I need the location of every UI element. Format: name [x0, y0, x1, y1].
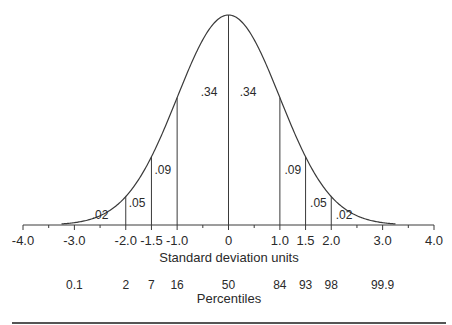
- percentile-label: 16: [170, 278, 184, 292]
- normal-curve-diagram: -4.0-3.0-2.0-1.5-1.001.01.52.03.04.0.02.…: [0, 0, 452, 325]
- percentile-label: 7: [148, 278, 155, 292]
- percentiles-title: Percentiles: [197, 291, 262, 306]
- region-probability-label: .05: [129, 196, 146, 210]
- x-tick-label: 1.5: [297, 233, 315, 248]
- x-tick-label: -3.0: [63, 233, 85, 248]
- x-tick-label: 4.0: [425, 233, 443, 248]
- region-probability-label: .02: [92, 208, 109, 222]
- x-tick-label: 1.0: [271, 233, 289, 248]
- region-probability-label: .02: [336, 208, 353, 222]
- region-probability-label: .34: [201, 85, 218, 99]
- x-tick-label: -1.5: [140, 233, 162, 248]
- x-tick-label: 2.0: [322, 233, 340, 248]
- percentile-label: 2: [122, 278, 129, 292]
- percentile-label: 99.9: [371, 278, 395, 292]
- percentile-label: 98: [325, 278, 339, 292]
- percentile-label: 50: [222, 278, 236, 292]
- x-tick-label: -2.0: [115, 233, 137, 248]
- percentile-label: 84: [273, 278, 287, 292]
- x-tick-label: 0: [225, 233, 232, 248]
- region-probability-label: .05: [310, 196, 327, 210]
- region-probability-label: .09: [284, 163, 301, 177]
- x-tick-label: -1.0: [166, 233, 188, 248]
- region-probability-label: .09: [154, 163, 171, 177]
- x-tick-label: 3.0: [374, 233, 392, 248]
- percentile-label: 93: [299, 278, 313, 292]
- percentile-label: 0.1: [66, 278, 83, 292]
- region-probability-label: .34: [240, 85, 257, 99]
- x-tick-label: -4.0: [12, 233, 34, 248]
- x-axis-title: Standard deviation units: [159, 250, 299, 265]
